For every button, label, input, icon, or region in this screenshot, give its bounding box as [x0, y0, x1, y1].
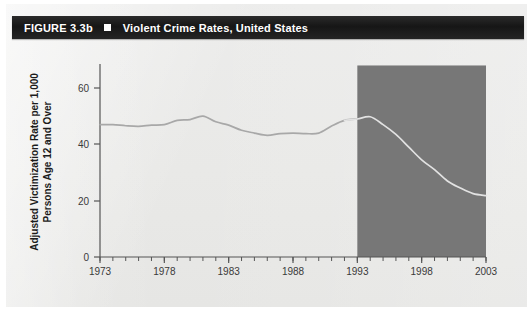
filled-square-icon	[104, 24, 111, 31]
y-tick-label-0: 0	[83, 252, 89, 263]
x-tick-label-1978: 1978	[153, 266, 176, 277]
x-tick-label-1988: 1988	[282, 266, 305, 277]
x-tick-label-1983: 1983	[218, 266, 241, 277]
x-tick-label-2003: 2003	[475, 266, 498, 277]
x-tick-label-1998: 1998	[411, 266, 434, 277]
y-axis-title-line-1: Adjusted Victimization Rate per 1,000	[29, 73, 40, 251]
line-chart: 0 20 40 60 Adjusted Victimization Rate p…	[12, 44, 524, 294]
figure-container: FIGURE 3.3b Violent Crime Rates, United …	[0, 0, 531, 310]
shaded-region-1993-2003	[357, 65, 486, 257]
x-tick-label-1973: 1973	[89, 266, 112, 277]
chart-plot-area: 0 20 40 60 Adjusted Victimization Rate p…	[12, 44, 524, 294]
x-axis-major-ticks	[100, 257, 486, 263]
y-tick-label-60: 60	[78, 83, 90, 94]
y-axis-title-line-2: Persons Age 12 and Over	[42, 101, 53, 222]
figure-title-label: Violent Crime Rates, United States	[123, 22, 308, 34]
y-tick-label-20: 20	[78, 196, 90, 207]
x-tick-label-1993: 1993	[346, 266, 369, 277]
source-note-strip	[14, 299, 514, 310]
figure-number-label: FIGURE 3.3b	[24, 22, 93, 34]
y-tick-label-40: 40	[78, 139, 90, 150]
figure-title-bar: FIGURE 3.3b Violent Crime Rates, United …	[12, 16, 524, 39]
y-axis-ticks	[94, 88, 100, 257]
data-line-unshaded	[100, 116, 357, 135]
x-axis-tick-labels: 1973197819831988199319982003	[89, 266, 498, 277]
